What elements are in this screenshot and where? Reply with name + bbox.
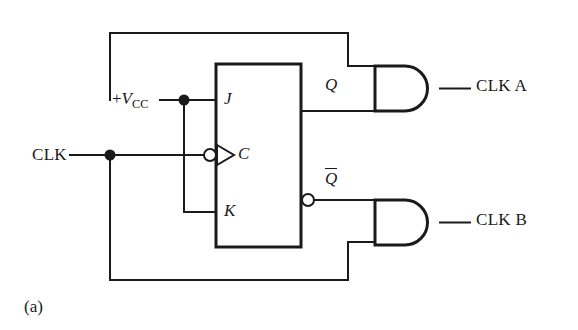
- figure-caption: (a): [24, 298, 43, 315]
- and-gate-b: [375, 200, 428, 245]
- junction-dot-clk: [105, 150, 116, 161]
- and-gate-a: [375, 66, 428, 111]
- qbar-inverting-bubble: [302, 194, 314, 206]
- label-clk-input: CLK: [32, 146, 67, 163]
- clock-inverting-bubble: [204, 149, 216, 161]
- label-output-clk-b: CLK B: [476, 211, 527, 228]
- vcc-v: V: [122, 89, 132, 108]
- label-output-clk-a: CLK A: [476, 77, 527, 94]
- label-input-j: J: [224, 90, 232, 107]
- figure-canvas: +VCC CLK J C K Q Q CLK A CLK B (a): [0, 0, 578, 330]
- qbar-text: Q: [325, 168, 337, 187]
- label-output-qbar: Q: [325, 168, 337, 187]
- label-output-q: Q: [325, 76, 337, 93]
- label-vcc: +VCC: [112, 90, 148, 111]
- junction-dot-vcc: [179, 95, 190, 106]
- vcc-subscript: CC: [132, 97, 148, 111]
- label-input-c: C: [238, 145, 249, 162]
- label-input-k: K: [224, 202, 235, 219]
- circuit-schematic: [0, 0, 578, 330]
- vcc-plus: +: [112, 89, 122, 108]
